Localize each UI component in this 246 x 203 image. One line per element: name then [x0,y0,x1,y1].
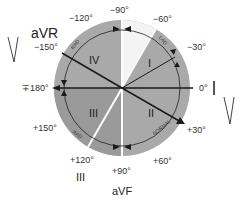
angle-plus120: +120° [70,156,94,165]
lead-aVF: aVF [112,186,132,197]
angle-plus90: +90° [112,167,131,176]
angle-minus150: −150° [34,43,58,52]
angle-minus60: −60° [153,15,172,24]
angle-zero: 0° [199,84,208,93]
angle-minus30: −30° [187,43,206,52]
quadrant-II: II [148,108,154,119]
lead-III: III [76,172,85,183]
lead-aVR: aVR [31,26,58,40]
quadrant-IV: IV [89,55,99,66]
angle-pm180: ∓180° [22,84,49,93]
angle-plus60: +60° [153,157,172,166]
quadrant-III: III [89,108,98,119]
angle-plus30: +30° [187,126,206,135]
angle-plus150: +150° [33,124,57,133]
quadrant-I: I [148,58,151,69]
angle-minus120: −120° [69,14,93,23]
angle-minus90: −90° [110,6,129,15]
qrs-lead-I-icon [224,97,234,124]
qrs-aVR-icon [8,37,18,62]
